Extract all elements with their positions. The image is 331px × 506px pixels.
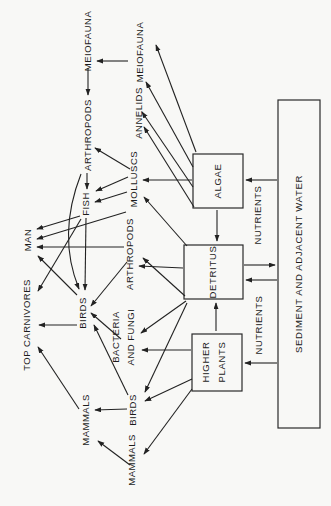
arrow-arthropods-upper-to-birds-upper — [68, 174, 81, 289]
birds-lower-label: BIRDS — [127, 394, 138, 426]
arrow-algae-to-annelids — [144, 127, 194, 207]
detritus-label: DETRITUS — [207, 245, 218, 298]
fish-label: FISH — [80, 192, 91, 216]
arrow-molluscs-to-fish — [96, 177, 128, 191]
man-label: MAN — [22, 229, 33, 252]
birds-upper-label: BIRDS — [77, 297, 88, 329]
arrow-fish-to-man — [37, 216, 80, 229]
meiofauna-lower-label: MEIOFAUNA — [134, 22, 145, 83]
top-carnivores-label: TOP CARNIVORES — [21, 279, 32, 371]
arrow-molluscs-to-arthropods-upper — [95, 148, 130, 169]
arthropods-lower-label: ARTHROPODS — [124, 218, 135, 290]
arrow-fish-to-top-carnivores — [38, 219, 81, 291]
arrow-mammals-upper-to-top-carnivores — [38, 347, 79, 409]
arrow-birds-lower-to-mammals-upper — [95, 409, 127, 410]
meiofauna-upper-label: MEIOFAUNA — [82, 11, 93, 72]
arrow-detritus-to-bacteria-fungi — [141, 301, 186, 333]
nutrients-lower-label: NUTRIENTS — [253, 296, 264, 355]
arrow-higher-plants-to-mammals-lower — [144, 389, 192, 454]
higher-plants-label-line1: HIGHER — [200, 341, 211, 382]
arrow-detritus-to-arthropods-lower — [143, 258, 185, 296]
nutrients-upper-label: NUTRIENTS — [252, 186, 263, 245]
arrow-arthropods-lower-to-birds-upper — [91, 262, 127, 306]
arrow-fish-to-birds-upper — [85, 218, 86, 290]
arrow-detritus-to-birds-lower — [145, 303, 187, 392]
bacteria-fungi-label-line2: AND FUNGI — [125, 309, 136, 366]
higher-plants-label-line2: PLANTS — [216, 341, 227, 382]
molluscs-label: MOLLUSCS — [128, 151, 139, 207]
algae-label: ALGAE — [212, 163, 223, 198]
mammals-lower-label: MAMMALS — [126, 434, 137, 486]
arrow-detritus-to-arthropods-lower — [139, 266, 183, 268]
mammals-upper-label: MAMMALS — [80, 394, 91, 446]
arrow-molluscs-to-fish — [95, 192, 127, 202]
food-web-diagram: ALGAE DETRITUS HIGHER PLANTS SEDIMENT AN… — [0, 0, 331, 506]
arthropods-upper-label: ARTHROPODS — [82, 99, 93, 171]
sediment-label: SEDIMENT AND ADJACENT WATER — [293, 175, 304, 353]
arrow-detritus-to-molluscs — [144, 197, 187, 246]
arrow-layer — [37, 45, 277, 465]
